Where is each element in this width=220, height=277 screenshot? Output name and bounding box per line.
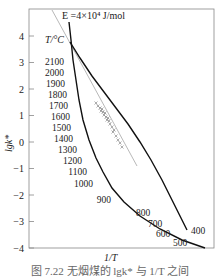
temperature-unit-label: T/°C — [45, 34, 64, 45]
y-axis-title: lgk* — [3, 135, 14, 152]
y-tick-label: −2 — [13, 190, 24, 201]
y-tick-label: −1 — [13, 163, 24, 174]
y-tick-label: 0 — [19, 137, 24, 148]
y-tick-label: 2 — [19, 84, 24, 95]
temperature-label: 2100 — [45, 57, 64, 67]
temperature-label: 1000 — [74, 179, 93, 189]
temperature-label: 500 — [173, 238, 188, 248]
figure-caption: 图 7.22 无烟煤的 lgk* 与 1/T 之间 — [0, 262, 220, 277]
temperature-label: 1500 — [52, 123, 71, 133]
y-axis: 43210−1−2−3−4 — [13, 31, 34, 254]
arrhenius-chart: 43210−1−2−3−4 21002000190018001700160015… — [0, 0, 220, 277]
y-tick-label: 4 — [19, 31, 24, 42]
temperature-label: 1600 — [51, 112, 70, 122]
data-point — [115, 135, 118, 138]
y-tick-label: −3 — [13, 216, 24, 227]
temperature-label: 2000 — [45, 68, 64, 78]
data-point — [109, 123, 112, 126]
data-point — [111, 126, 114, 129]
data-point — [119, 142, 122, 145]
scatter-points — [95, 102, 124, 149]
temperature-label: 1100 — [68, 167, 87, 177]
temperature-label: 400 — [191, 226, 206, 236]
y-tick-label: 1 — [19, 110, 24, 121]
temperature-label: 700 — [148, 219, 163, 229]
temperature-label: 1700 — [49, 101, 68, 111]
y-tick-label: −4 — [13, 243, 24, 254]
temperature-label: 1400 — [54, 134, 73, 144]
temperature-label: 1900 — [46, 79, 65, 89]
temperature-label: 900 — [97, 195, 112, 205]
data-point — [95, 102, 98, 105]
activation-energy-label: E =4×10⁴ J/mol — [62, 10, 125, 21]
temperature-label: 1300 — [58, 145, 77, 155]
temperature-label: 1200 — [63, 156, 82, 166]
temperature-label: 1800 — [48, 90, 67, 100]
y-tick-label: 3 — [19, 57, 24, 68]
data-point — [117, 139, 120, 142]
temperature-label: 800 — [136, 208, 151, 218]
temperature-label: 600 — [156, 229, 171, 239]
data-point — [121, 146, 124, 149]
